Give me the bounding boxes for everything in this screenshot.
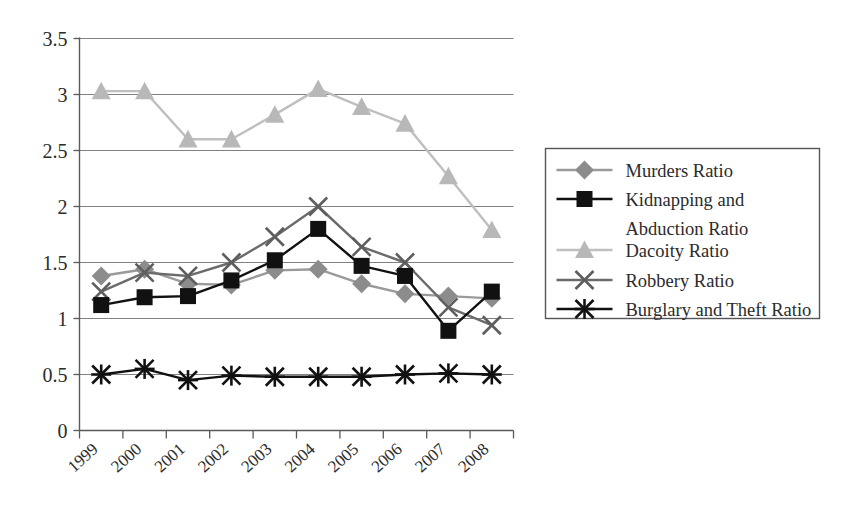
legend-item-label: Robbery Ratio [626,271,734,291]
legend-item-label: Burglary and Theft Ratio [626,300,812,320]
y-tick-label: 2.5 [43,140,68,162]
marker-asterisk [135,359,155,379]
diamond-marker [439,287,458,306]
x-tick-label: 2002 [194,439,232,476]
x-tick-label: 2003 [237,439,275,476]
series-dacoity-ratio [92,79,502,238]
x-tick-label: 1999 [64,439,102,476]
marker-square [440,323,456,339]
square-marker [310,221,326,237]
legend-item-murders-ratio[interactable]: Murders Ratio [557,161,733,182]
legend-item-label-line2: Abduction Ratio [626,219,749,239]
crime-ratio-line-chart: 3.532.521.510.50 19992000200120022003200… [0,0,849,513]
marker-diamond [396,284,415,303]
marker-asterisk [352,367,372,387]
square-marker [577,191,593,207]
marker-square [354,258,370,274]
square-marker [137,289,153,305]
series-polyline [101,89,492,230]
marker-asterisk [438,363,458,383]
marker-diamond [92,266,111,285]
y-tick-label: 0.5 [43,364,68,386]
marker-square [267,252,283,268]
square-marker [354,258,370,274]
marker-square [137,289,153,305]
marker-asterisk [91,365,111,385]
marker-square [397,268,413,284]
marker-triangle [309,79,328,97]
triangle-marker [265,105,284,123]
marker-asterisk [395,365,415,385]
legend-item-label: Murders Ratio [626,161,733,181]
x-tick-label: 2000 [107,439,145,476]
marker-asterisk [308,367,328,387]
square-marker [397,268,413,284]
triangle-marker [309,79,328,97]
square-marker [180,288,196,304]
square-marker [267,252,283,268]
square-marker [440,323,456,339]
marker-asterisk [178,370,198,390]
series-robbery-ratio [92,198,501,335]
y-tick-label: 3.5 [43,28,68,50]
legend-item-label: Kidnapping and [626,190,745,210]
x-tick-label: 2001 [151,439,189,476]
diamond-marker [352,274,371,293]
marker-asterisk [575,299,595,319]
data-series-group [91,79,502,390]
y-tick-label: 3 [58,84,68,106]
triangle-marker [352,97,371,115]
y-axis-tick-labels: 3.532.521.510.50 [43,28,68,442]
y-tick-label: 1.5 [43,252,68,274]
legend-item-label: Dacoity Ratio [626,241,729,261]
diamond-marker [396,284,415,303]
y-tick-label: 0 [58,420,68,442]
square-marker [93,297,109,313]
marker-square [180,288,196,304]
x-tick-label: 2005 [324,439,362,476]
marker-x [266,228,284,246]
legend: Murders RatioKidnapping andAbduction Rat… [546,149,820,321]
series-murders-ratio [92,260,502,308]
marker-triangle [352,97,371,115]
marker-square [310,221,326,237]
square-marker [484,284,500,300]
triangle-marker [396,114,415,132]
series-kidnapping-and-abduction-ratio [93,221,500,339]
series-polyline [101,207,492,326]
marker-diamond [439,287,458,306]
x-axis-tick-labels: 1999200020012002200320042005200620072008 [64,439,493,476]
marker-asterisk [265,367,285,387]
x-tick-label: 2006 [368,439,406,476]
marker-triangle [396,114,415,132]
x-tick-label: 2008 [454,439,492,476]
marker-triangle [265,105,284,123]
marker-square [484,284,500,300]
marker-square [93,297,109,313]
marker-asterisk [482,365,502,385]
y-tick-label: 2 [58,196,68,218]
diamond-marker [92,266,111,285]
y-tick-label: 1 [58,308,68,330]
x-tick-label: 2007 [411,439,449,476]
marker-diamond [352,274,371,293]
marker-x [353,238,371,256]
chart-canvas: 3.532.521.510.50 19992000200120022003200… [0,0,849,513]
marker-square [223,272,239,288]
square-marker [223,272,239,288]
marker-square [577,191,593,207]
marker-asterisk [221,366,241,386]
series-polyline [101,229,492,331]
x-tick-label: 2004 [281,439,319,476]
